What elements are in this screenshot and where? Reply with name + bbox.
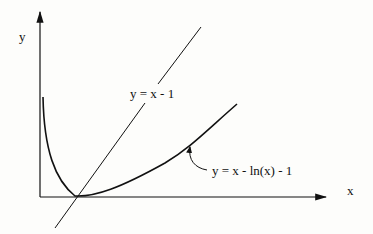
x-axis-label: x <box>347 183 354 198</box>
figure: y x y = x - 1 y = x - ln(x) - 1 <box>0 0 373 234</box>
line-y-equals-x-minus-1-lower <box>55 103 145 228</box>
line-y-equals-x-minus-1-upper <box>158 27 201 84</box>
line-label: y = x - 1 <box>130 86 174 101</box>
y-axis-label: y <box>19 29 26 44</box>
curve-label: y = x - ln(x) - 1 <box>212 163 292 178</box>
curve-y-equals-x-minus-ln-x-minus-1 <box>43 97 237 196</box>
annotation-arrow <box>190 147 207 170</box>
